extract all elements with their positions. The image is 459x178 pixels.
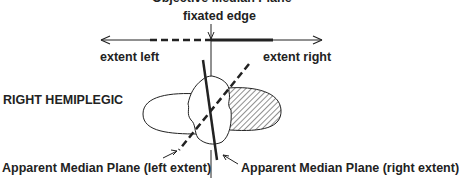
extent-right-label: extent right [263,51,331,64]
objective-median-plane-label: Objective Median Plane [152,0,292,5]
pointer-right-arrow-icon [223,155,238,164]
apparent-median-plane-right-label: Apparent Median Plane (right extent) [241,162,459,175]
condition-label: RIGHT HEMIPLEGIC [3,94,123,107]
apparent-median-plane-left-label: Apparent Median Plane (left extent) [2,162,211,175]
fixated-edge-label: fixated edge [183,10,256,23]
extent-left-label: extent left [100,51,159,64]
pointer-left-arrow-icon [163,150,177,158]
fixated-edge-arrow-icon [208,24,214,39]
right-lobe [228,88,281,131]
